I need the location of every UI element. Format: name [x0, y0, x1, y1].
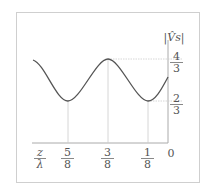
y-tick-2-3: 2 3: [170, 93, 183, 117]
y-tick-4-3: 4 3: [170, 51, 183, 75]
x-origin-label: 0: [166, 148, 176, 159]
x-tick-3-8: 3 8: [101, 147, 114, 171]
y-axis-label: |V̂s|: [163, 32, 185, 43]
x-tick-1-8: 1 8: [141, 147, 154, 171]
voltage-curve: [33, 59, 168, 101]
x-axis-label: z λ: [34, 147, 46, 171]
x-tick-5-8: 5 8: [61, 147, 74, 171]
